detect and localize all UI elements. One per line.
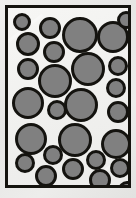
circle-marker — [110, 158, 130, 178]
circle-marker — [89, 169, 111, 188]
circle-marker — [118, 181, 131, 188]
circle-marker — [15, 123, 47, 155]
circle-marker — [39, 17, 61, 39]
circle-marker — [16, 32, 40, 56]
circle-marker — [15, 153, 35, 173]
circle-marker — [101, 129, 131, 159]
poster-root — [0, 0, 136, 198]
circle-marker — [107, 101, 129, 123]
circle-marker — [47, 100, 67, 120]
circle-marker — [58, 123, 92, 157]
circle-marker — [35, 165, 57, 187]
circle-marker — [38, 64, 72, 98]
circle-marker — [62, 158, 84, 180]
circle-marker — [62, 17, 98, 53]
circle-marker — [117, 11, 131, 29]
circle-marker — [43, 145, 63, 165]
poster-frame — [5, 5, 131, 188]
circle-marker — [12, 87, 44, 119]
circle-marker — [108, 56, 128, 76]
circle-marker — [17, 58, 39, 80]
circle-marker — [64, 88, 98, 122]
circle-marker — [86, 150, 106, 170]
circle-marker — [43, 41, 65, 63]
circle-field — [8, 8, 128, 185]
circle-marker — [13, 13, 31, 31]
circle-marker — [106, 78, 126, 98]
circle-marker — [71, 52, 105, 86]
